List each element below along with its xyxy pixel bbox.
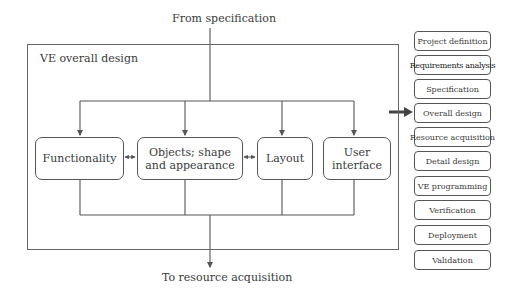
component-user-interface[interactable]: User interface bbox=[323, 137, 391, 180]
step-overall-design[interactable]: Overall design bbox=[414, 103, 491, 123]
step-project-definition[interactable]: Project definition bbox=[414, 31, 491, 51]
component-functionality[interactable]: Functionality bbox=[35, 137, 124, 180]
output-label: To resource acquisition bbox=[162, 271, 292, 284]
step-verification[interactable]: Verification bbox=[414, 200, 491, 220]
component-label-line2: and appearance bbox=[145, 159, 234, 172]
step-requirements-analysis[interactable]: Requirements analysis bbox=[414, 55, 491, 75]
component-label-line1: User bbox=[344, 146, 371, 159]
step-validation[interactable]: Validation bbox=[414, 250, 491, 270]
container-title: VE overall design bbox=[40, 52, 138, 65]
step-resource-acquisition[interactable]: Resource acquisition bbox=[414, 127, 491, 147]
input-label: From specification bbox=[172, 12, 276, 25]
component-label-line2: interface bbox=[332, 159, 382, 172]
component-label: Functionality bbox=[43, 152, 117, 165]
step-deployment[interactable]: Deployment bbox=[414, 225, 491, 245]
step-ve-programming[interactable]: VE programming bbox=[414, 176, 491, 196]
step-detail-design[interactable]: Detail design bbox=[414, 151, 491, 171]
component-label: Layout bbox=[266, 152, 304, 165]
component-objects-shape-appearance[interactable]: Objects; shape and appearance bbox=[137, 137, 243, 180]
step-specification[interactable]: Specification bbox=[414, 79, 491, 99]
component-label-line1: Objects; shape bbox=[149, 146, 231, 159]
component-layout[interactable]: Layout bbox=[257, 137, 313, 180]
